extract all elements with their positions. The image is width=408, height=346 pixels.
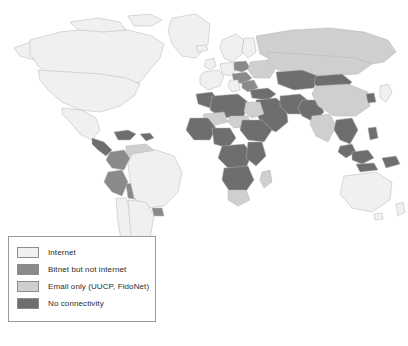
legend-label-email-only: Email only (UUCP, FidoNet) bbox=[48, 281, 149, 292]
legend-label-internet: Internet bbox=[48, 247, 76, 258]
legend-item-internet: Internet bbox=[9, 244, 155, 261]
legend-label-bitnet: Bitnet but not internet bbox=[48, 264, 126, 275]
legend-swatch-internet bbox=[17, 247, 39, 258]
legend-swatch-email-only bbox=[17, 281, 39, 292]
legend-item-email-only: Email only (UUCP, FidoNet) bbox=[9, 278, 155, 295]
legend-swatch-no-connectivity bbox=[17, 298, 39, 309]
legend-label-no-connectivity: No connectivity bbox=[48, 298, 104, 309]
map-legend: Internet Bitnet but not internet Email o… bbox=[8, 236, 156, 322]
legend-item-no-connectivity: No connectivity bbox=[9, 295, 155, 312]
legend-swatch-bitnet bbox=[17, 264, 39, 275]
legend-item-bitnet: Bitnet but not internet bbox=[9, 261, 155, 278]
world-connectivity-map: Internet Bitnet but not internet Email o… bbox=[0, 0, 408, 346]
